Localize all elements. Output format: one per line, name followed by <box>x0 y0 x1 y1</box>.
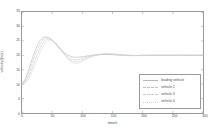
legend-label: leading vehicle <box>161 79 184 83</box>
legend-line-sample <box>143 102 158 103</box>
legend-label: vehicle 3 <box>161 93 175 97</box>
y-tick-label: 30 <box>16 25 20 28</box>
x-tick-label: 150 <box>111 115 117 118</box>
legend-label: vehicle 4 <box>161 100 175 104</box>
x-tick-label: 100 <box>80 115 86 118</box>
y-tick-label: 0 <box>18 113 20 116</box>
legend-line-sample <box>143 94 158 95</box>
x-tick-label: 200 <box>141 115 147 118</box>
legend-line-sample <box>143 87 158 88</box>
y-axis-label: velocity/(m/s) <box>1 51 5 72</box>
legend-item: vehicle 4 <box>140 99 200 106</box>
legend-item: vehicle 3 <box>140 91 200 98</box>
x-tick-label: 0 <box>21 115 23 118</box>
x-tick-label: 50 <box>51 115 55 118</box>
x-axis-label: time/s <box>21 122 204 126</box>
x-tick-label: 300 <box>202 115 208 118</box>
legend-line-sample <box>143 80 158 81</box>
y-tick-label: 20 <box>16 54 20 57</box>
y-tick-label: 25 <box>16 40 20 43</box>
y-tick-label: 35 <box>16 10 20 13</box>
chart-legend: leading vehiclevehicle 2vehicle 3vehicle… <box>139 74 201 109</box>
y-tick-label: 10 <box>16 84 20 87</box>
legend-item: vehicle 2 <box>140 84 200 91</box>
x-tick-label: 250 <box>172 115 178 118</box>
y-tick-label: 5 <box>18 99 20 102</box>
y-tick-label: 15 <box>16 69 20 72</box>
legend-label: vehicle 2 <box>161 86 175 90</box>
legend-item: leading vehicle <box>140 77 200 84</box>
chart-figure: 05101520253035050100150200250300 velocit… <box>0 0 220 132</box>
